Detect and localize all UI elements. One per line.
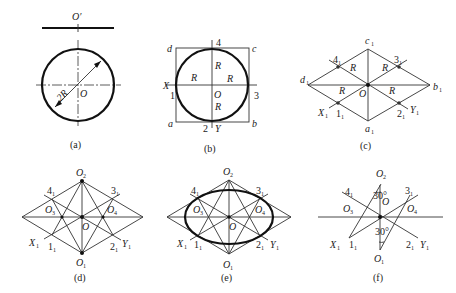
svg-text:3: 3 <box>200 210 203 216</box>
svg-text:R: R <box>349 62 356 73</box>
label-O: O <box>82 221 89 232</box>
svg-text:1: 1 <box>381 259 384 265</box>
caption-b: (b) <box>204 143 216 155</box>
caption-c: (c) <box>360 140 371 152</box>
svg-text:R: R <box>338 85 345 96</box>
svg-text:1: 1 <box>411 245 414 251</box>
panel-f: O2 O1 O3 O4 O 30° 30° 41 31 11 21 X1 Y1 … <box>318 168 443 284</box>
svg-text:1: 1 <box>350 192 353 198</box>
panel-e: O2 O1 O3 O4 O 41 31 11 21 X1 Y1 (e) <box>167 166 291 284</box>
label-1: 1 <box>170 90 175 101</box>
svg-text:1: 1 <box>199 245 202 251</box>
caption-f: (f) <box>373 272 383 284</box>
label-O-prime: O′ <box>72 11 82 22</box>
svg-text:1: 1 <box>115 247 118 253</box>
svg-text:1: 1 <box>83 263 86 269</box>
svg-text:1: 1 <box>416 110 419 116</box>
svg-text:3: 3 <box>52 210 55 216</box>
label-R: R <box>226 73 233 84</box>
svg-text:1: 1 <box>306 80 309 86</box>
svg-text:1: 1 <box>116 191 119 197</box>
svg-text:X: X <box>28 237 36 248</box>
panel-b: d c a b 4 2 Y X 1 3 O R R R R (b) <box>162 37 259 155</box>
svg-text:1: 1 <box>338 60 341 66</box>
svg-text:R: R <box>381 62 388 73</box>
svg-text:1: 1 <box>354 245 357 251</box>
label-O: O <box>359 88 366 99</box>
svg-text:1: 1 <box>276 245 279 251</box>
svg-text:1: 1 <box>128 244 131 250</box>
svg-text:4: 4 <box>114 210 117 216</box>
svg-text:1: 1 <box>261 245 264 251</box>
label-4: 4 <box>216 37 221 48</box>
label-O: O <box>214 89 221 100</box>
svg-text:2: 2 <box>230 172 233 178</box>
caption-a: (a) <box>70 139 81 151</box>
svg-text:O: O <box>229 221 236 232</box>
svg-text:1: 1 <box>341 114 344 120</box>
label-b1: b <box>433 81 438 92</box>
svg-text:X: X <box>329 239 337 250</box>
isometric-circle-construction-figure: O′ 2R O (a) d c a b 4 2 Y X 1 3 O R R R … <box>0 0 456 293</box>
label-b: b <box>252 118 257 129</box>
label-X: X <box>162 80 170 91</box>
svg-text:1: 1 <box>402 114 405 120</box>
label-2R: 2R <box>54 87 70 103</box>
label-O: O <box>80 88 87 99</box>
svg-text:R: R <box>388 85 395 96</box>
caption-e: (e) <box>221 272 232 284</box>
label-3: 3 <box>254 90 259 101</box>
label-X1: X <box>317 107 325 118</box>
svg-text:1: 1 <box>184 244 187 250</box>
svg-text:2: 2 <box>383 174 386 180</box>
diagram-svg: O′ 2R O (a) d c a b 4 2 Y X 1 3 O R R R … <box>0 0 456 293</box>
svg-text:4: 4 <box>414 209 417 215</box>
svg-text:1: 1 <box>439 87 442 93</box>
label-R: R <box>214 60 221 71</box>
svg-text:1: 1 <box>196 191 199 197</box>
panel-d: O2 O1 O3 O4 O 41 31 11 21 X1 Y1 (d) <box>22 167 143 284</box>
svg-text:1: 1 <box>52 191 55 197</box>
svg-text:1: 1 <box>36 243 39 249</box>
label-a1: a <box>365 123 370 134</box>
svg-text:1: 1 <box>230 265 233 271</box>
svg-text:1: 1 <box>53 247 56 253</box>
svg-text:1: 1 <box>261 191 264 197</box>
angle-label-30: 30° <box>375 226 389 237</box>
svg-text:X: X <box>176 238 184 249</box>
svg-text:1: 1 <box>410 191 413 197</box>
label-c: c <box>252 43 257 54</box>
angle-label-30: 30° <box>373 190 387 201</box>
svg-text:1: 1 <box>371 129 374 135</box>
svg-text:1: 1 <box>325 113 328 119</box>
label-R: R <box>214 101 221 112</box>
svg-text:1: 1 <box>399 60 402 66</box>
svg-text:3: 3 <box>350 209 353 215</box>
svg-text:1: 1 <box>371 41 374 47</box>
svg-text:2: 2 <box>83 173 86 179</box>
label-2: 2 <box>203 123 208 134</box>
label-d: d <box>167 43 173 54</box>
svg-text:1: 1 <box>337 245 340 251</box>
caption-d: (d) <box>74 272 86 284</box>
label-c1: c <box>365 35 370 46</box>
panel-c: c1 d1 b1 a1 41 31 11 21 X1 Y1 O R R R R … <box>300 35 442 152</box>
svg-text:4: 4 <box>262 210 265 216</box>
label-a: a <box>168 118 173 129</box>
panel-a: O′ 2R O (a) <box>36 11 121 151</box>
label-R: R <box>190 72 197 83</box>
svg-text:1: 1 <box>426 245 429 251</box>
label-Y: Y <box>215 123 222 134</box>
